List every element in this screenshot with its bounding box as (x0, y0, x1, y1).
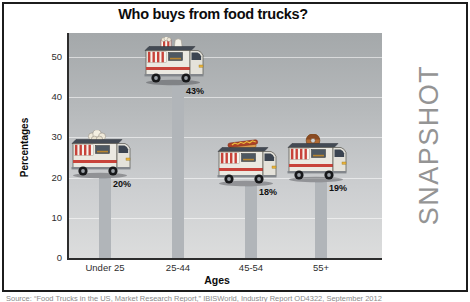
food-truck-donut-icon (282, 134, 354, 184)
x-category-label-under-25: Under 25 (69, 262, 141, 273)
food-truck-popcorn-icon (66, 130, 138, 180)
food-truck-infographic: Who buys from food trucks? Percentages A… (0, 0, 470, 302)
food-truck-icon (145, 37, 204, 85)
y-tick-label-10: 10 (30, 212, 62, 223)
y-tick-label-0: 0 (30, 252, 62, 263)
snapshot-side-label: SNAPSHOT (409, 35, 449, 255)
x-axis-line (67, 258, 382, 260)
bar-value-label-under-25: 20% (113, 179, 131, 189)
source-citation: Source: “Food Trucks in the US, Market R… (6, 294, 466, 302)
food-truck-hotdog-icon (212, 138, 284, 188)
bar-under-25 (99, 178, 111, 258)
y-tick-label-50: 50 (30, 51, 62, 62)
x-category-label-55-: 55+ (285, 262, 357, 273)
y-tick-label-20: 20 (30, 172, 62, 183)
bar-55- (315, 182, 327, 258)
bar-value-label-55-: 19% (329, 183, 347, 193)
y-axis-line (67, 33, 69, 260)
gridline-40 (69, 97, 382, 98)
gridline-50 (69, 57, 382, 58)
x-category-label-45-54: 45-54 (215, 262, 287, 273)
bar-value-label-25-44: 43% (186, 86, 204, 96)
bar-value-label-45-54: 18% (259, 187, 277, 197)
food-truck-icon (288, 134, 347, 182)
x-axis-title: Ages (177, 274, 257, 286)
y-axis-title: Percentages (19, 78, 30, 218)
bar-45-54 (245, 186, 257, 258)
food-truck-popcorn-box-icon (139, 37, 211, 87)
x-category-label-25-44: 25-44 (142, 262, 214, 273)
bar-25-44 (172, 85, 184, 258)
food-truck-icon (218, 139, 277, 186)
chart-title: Who buys from food trucks? (0, 6, 426, 22)
food-truck-icon (72, 130, 131, 178)
y-tick-label-30: 30 (30, 131, 62, 142)
y-tick-label-40: 40 (30, 91, 62, 102)
gridline-10 (69, 218, 382, 219)
